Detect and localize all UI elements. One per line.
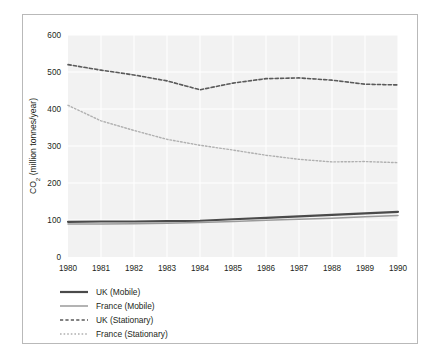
- x-axis-tick-label: 1989: [356, 264, 375, 273]
- y-axis-tick-label: 500: [47, 68, 61, 77]
- y-axis-tick-label: 300: [47, 142, 61, 151]
- y-axis-tick-label: 100: [47, 216, 61, 225]
- legend-label-3: UK (Stationary): [96, 315, 153, 325]
- y-axis-tick-label: 0: [56, 253, 61, 262]
- y-axis-title: CO2 (million tonnes/year): [28, 98, 41, 194]
- y-axis-title-text: CO2 (million tonnes/year): [28, 98, 41, 194]
- x-axis-tick-label: 1982: [125, 264, 144, 273]
- x-axis-tick-label: 1986: [257, 264, 276, 273]
- y-axis-tick-label: 200: [47, 179, 61, 188]
- x-axis-tick-label: 1983: [158, 264, 177, 273]
- x-axis-tick-label: 1984: [191, 264, 210, 273]
- x-axis-tick-label: 1985: [224, 264, 243, 273]
- x-axis-tick-label: 1988: [323, 264, 342, 273]
- y-axis-tick-label: 400: [47, 105, 61, 114]
- legend-label-4: France (Stationary): [96, 329, 168, 339]
- legend-label-1: UK (Mobile): [96, 287, 140, 297]
- x-axis-tick-label: 1987: [290, 264, 309, 273]
- x-axis-tick-label: 1981: [92, 264, 111, 273]
- y-axis-tick-label: 600: [47, 31, 61, 40]
- legend-label-2: France (Mobile): [96, 301, 155, 311]
- x-axis-tick-label: 1990: [389, 264, 408, 273]
- line-chart: 0100200300400500600198019811982198319841…: [0, 0, 434, 356]
- x-axis-tick-label: 1980: [59, 264, 78, 273]
- figure-container: 0100200300400500600198019811982198319841…: [0, 0, 434, 356]
